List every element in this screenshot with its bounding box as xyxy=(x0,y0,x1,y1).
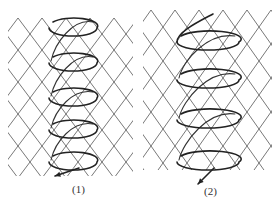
diamond-mesh xyxy=(0,18,276,176)
arrowhead-icon xyxy=(55,172,61,177)
helix-binding-diagram: (1) (2) xyxy=(0,0,276,204)
helical-coil xyxy=(49,18,98,177)
panel-2-caption: (2) xyxy=(204,185,217,197)
panel-1 xyxy=(0,18,276,177)
panel-2 xyxy=(0,10,276,184)
panel-1-caption: (1) xyxy=(72,183,85,195)
diagram-canvas xyxy=(0,0,276,204)
